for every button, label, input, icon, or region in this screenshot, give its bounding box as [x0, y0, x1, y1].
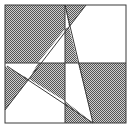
shaded-region-br-main — [78, 63, 126, 123]
shaded-region-bl-mid — [29, 63, 65, 101]
geometry-diagram — [0, 0, 132, 129]
shaded-region-tl-main — [5, 5, 65, 63]
